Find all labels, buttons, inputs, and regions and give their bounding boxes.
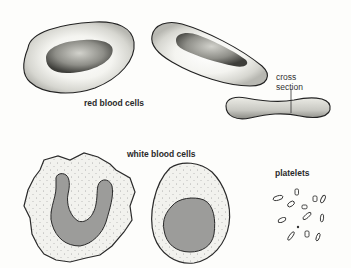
platelet: [313, 196, 317, 202]
rbc-tilted-view: [152, 23, 268, 87]
platelet: [320, 214, 324, 222]
red-blood-cells-label: red blood cells: [84, 98, 144, 108]
platelet: [295, 189, 299, 195]
cross-section-shape: [226, 97, 330, 119]
platelet: [273, 195, 284, 202]
wbc-round-nucleus: [152, 163, 230, 263]
wbc-lobed-nucleus: [24, 153, 135, 262]
cross-section-label-line1: cross: [276, 72, 296, 82]
platelet: [315, 233, 321, 242]
platelet: [278, 216, 287, 223]
platelet: [320, 195, 327, 204]
rbc-top-view: [24, 22, 134, 93]
cross-section-label-line2: section: [276, 82, 303, 92]
platelet: [287, 231, 295, 241]
blood-cells-diagram: cross section red blood cells white bloo…: [0, 0, 351, 268]
platelet-cluster: [273, 189, 327, 241]
platelet: [287, 200, 296, 208]
platelet: [302, 205, 307, 209]
platelets-label: platelets: [275, 168, 310, 178]
platelet: [302, 211, 312, 220]
platelet: [297, 226, 299, 228]
platelet: [305, 231, 309, 237]
white-blood-cells-label: white blood cells: [126, 149, 196, 159]
